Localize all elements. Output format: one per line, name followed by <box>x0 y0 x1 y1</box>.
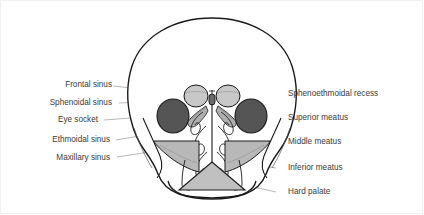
label-middle-meatus: Middle meatus <box>288 137 341 147</box>
frontal-sinus-right <box>216 85 240 107</box>
label-superior-meatus: Superior meatus <box>288 113 348 123</box>
eye-socket-left <box>157 99 189 133</box>
label-hard-palate: Hard palate <box>288 187 330 197</box>
label-frontal-sinus: Frontal sinus <box>18 80 112 90</box>
label-sphenoidal-sinus: Sphenoidal sinus <box>8 98 112 108</box>
frontal-sinus-left <box>184 85 208 107</box>
label-sphenoethmoidal-recess: Sphenoethmoidal recess <box>288 89 378 99</box>
eye-socket-right <box>235 99 267 133</box>
label-eye-socket: Eye socket <box>18 115 98 125</box>
label-inferior-meatus: Inferior meatus <box>288 163 343 173</box>
label-maxillary-sinus: Maxillary sinus <box>12 153 110 163</box>
label-ethmoidal-sinus: Ethmoidal sinus <box>12 135 110 145</box>
skull-anatomy-diagram: Frontal sinus Sphenoidal sinus Eye socke… <box>0 0 424 215</box>
